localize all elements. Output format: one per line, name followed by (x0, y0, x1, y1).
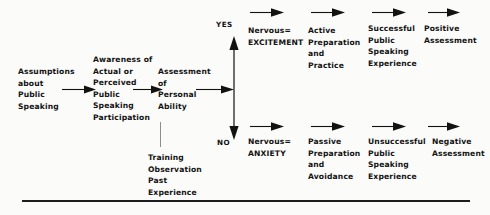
label-no: NO (217, 138, 230, 147)
arrow-experience-to-negative-assessment (428, 122, 460, 131)
node-positive-assessment: Positive Assessment (424, 23, 486, 46)
arrow-excitement-to-active-preparation (311, 8, 345, 17)
footer-horizontal-rule (22, 200, 470, 202)
node-passive-preparation-and-avoidance: Passive Preparation and Avoidance (308, 136, 370, 182)
node-nervous-equals-excitement: Nervous= EXCITEMENT (248, 25, 310, 48)
arrow-assumptions-to-awareness (62, 85, 96, 94)
arrow-preparation-to-successful-experience (372, 8, 406, 17)
arrow-anxiety-to-passive-preparation (311, 122, 345, 131)
node-active-preparation-and-practice: Active Preparation and Practice (308, 25, 370, 71)
arrow-experience-to-positive-assessment (428, 8, 460, 17)
arrow-yes-to-nervous-excitement (250, 8, 284, 17)
node-unsuccessful-public-speaking-experience: Unsuccessful Public Speaking Experience (368, 136, 432, 182)
arrow-avoidance-to-unsuccessful-experience (372, 122, 406, 131)
node-training-observation-past-experience: Training Observation Past Experience (148, 152, 228, 198)
arrow-no-to-nervous-anxiety (250, 122, 284, 131)
node-nervous-equals-anxiety: Nervous= ANXIETY (248, 136, 310, 159)
node-successful-public-speaking-experience: Successful Public Speaking Experience (368, 23, 430, 69)
node-negative-assessment: Negative Assessment (432, 136, 490, 159)
training-connector-line (160, 122, 161, 147)
vertical-double-arrow-yes-no (226, 36, 242, 140)
label-yes: YES (216, 20, 233, 29)
diagram-canvas: Assumptions about Public Speaking Awaren… (0, 0, 490, 215)
